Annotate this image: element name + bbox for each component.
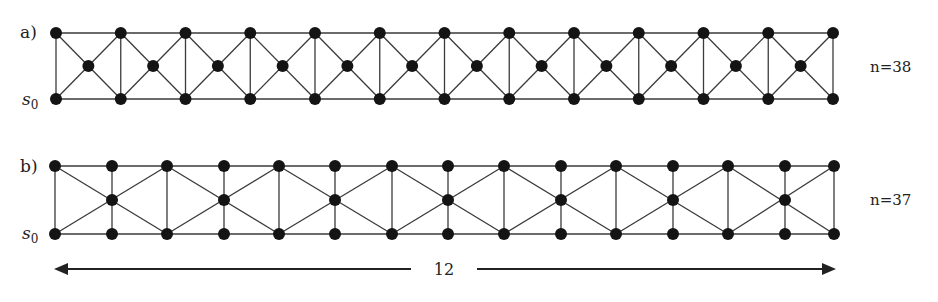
graph-node xyxy=(795,60,807,72)
graph-node xyxy=(341,60,353,72)
graph-node xyxy=(180,27,192,39)
graph-node xyxy=(667,194,679,206)
graph-node xyxy=(827,27,839,39)
arrowhead-right-icon xyxy=(822,263,836,275)
graph-node xyxy=(161,228,173,240)
graph-node xyxy=(386,160,398,172)
graph-node xyxy=(329,228,341,240)
graph-node xyxy=(471,60,483,72)
graph-node xyxy=(218,228,230,240)
graph-node xyxy=(50,93,62,105)
graph-node xyxy=(329,160,341,172)
graph-node xyxy=(244,27,256,39)
width-dimension-arrow: 12 xyxy=(54,260,836,279)
graph-node xyxy=(722,228,734,240)
graph-node xyxy=(503,27,515,39)
graph-node xyxy=(309,27,321,39)
dimension-label: 12 xyxy=(434,260,454,279)
graph-node xyxy=(498,160,510,172)
panel-a-graph: a) s0 n=38 xyxy=(20,22,911,112)
graph-node xyxy=(115,27,127,39)
graph-node xyxy=(568,27,580,39)
graph-node xyxy=(273,160,285,172)
graph-node xyxy=(762,27,774,39)
graph-node xyxy=(779,194,791,206)
graph-node xyxy=(329,194,341,206)
graph-node xyxy=(665,60,677,72)
graph-node xyxy=(698,93,710,105)
graph-node xyxy=(439,93,451,105)
graph-node xyxy=(106,228,118,240)
graph-node xyxy=(762,93,774,105)
graph-node xyxy=(667,228,679,240)
graph-node xyxy=(115,93,127,105)
graph-node xyxy=(212,60,224,72)
arrowhead-left-icon xyxy=(54,263,68,275)
graph-node xyxy=(374,27,386,39)
graph-node xyxy=(633,93,645,105)
graph-node xyxy=(730,60,742,72)
graph-node xyxy=(827,93,839,105)
graph-node xyxy=(555,160,567,172)
graph-node xyxy=(442,228,454,240)
graph-node xyxy=(106,194,118,206)
graph-node xyxy=(277,60,289,72)
graph-node xyxy=(161,160,173,172)
graph-node xyxy=(106,160,118,172)
graph-node xyxy=(779,160,791,172)
graph-node xyxy=(610,160,622,172)
panel-a-start-label: s0 xyxy=(22,89,38,112)
graph-node xyxy=(309,93,321,105)
panel-a-edges xyxy=(56,33,833,99)
graph-node xyxy=(386,228,398,240)
panel-b-label: b) xyxy=(20,156,38,176)
graph-node xyxy=(828,160,840,172)
graph-node xyxy=(439,27,451,39)
graph-node xyxy=(50,27,62,39)
panel-b-node-count: n=37 xyxy=(870,191,911,209)
graph-node xyxy=(49,160,61,172)
graph-node xyxy=(273,228,285,240)
panel-a-node-count: n=38 xyxy=(870,58,911,76)
graph-node xyxy=(498,228,510,240)
graph-node xyxy=(374,93,386,105)
graph-node xyxy=(779,228,791,240)
graph-node xyxy=(667,160,679,172)
graph-node xyxy=(633,27,645,39)
graph-node xyxy=(218,160,230,172)
graph-node xyxy=(82,60,94,72)
graph-node xyxy=(49,228,61,240)
graph-node xyxy=(568,93,580,105)
graph-node xyxy=(180,93,192,105)
graph-node xyxy=(442,160,454,172)
graph-node xyxy=(406,60,418,72)
graph-node xyxy=(600,60,612,72)
graph-node xyxy=(536,60,548,72)
graph-node xyxy=(218,194,230,206)
graph-node xyxy=(722,160,734,172)
graph-node xyxy=(244,93,256,105)
graph-node xyxy=(147,60,159,72)
graph-node xyxy=(698,27,710,39)
panel-b-start-label: s0 xyxy=(22,223,38,246)
panel-a-label: a) xyxy=(20,22,37,42)
graph-diagram: a) s0 n=38 b) s0 n=37 12 xyxy=(0,0,938,302)
graph-node xyxy=(503,93,515,105)
graph-node xyxy=(555,228,567,240)
panel-b-graph: b) s0 n=37 xyxy=(20,156,911,246)
graph-node xyxy=(828,228,840,240)
graph-node xyxy=(610,228,622,240)
graph-node xyxy=(555,194,567,206)
graph-node xyxy=(442,194,454,206)
